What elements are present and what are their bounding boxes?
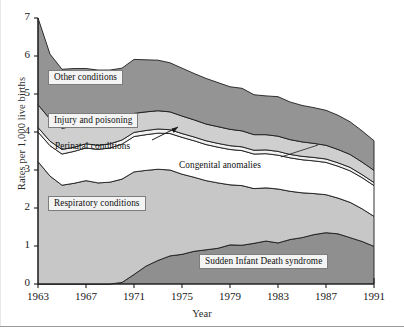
x-tick-label-1975: 1975 <box>162 290 202 302</box>
y-tick-label-0: 0 <box>16 276 30 288</box>
x-tick-label-1963: 1963 <box>18 290 58 302</box>
x-axis-title: Year <box>0 308 404 319</box>
y-tick-label-6: 6 <box>16 48 30 60</box>
chart-figure: Rates per 1,000 live births Year 0123456… <box>0 0 404 332</box>
figure-bottom-rule <box>0 326 404 327</box>
series-label-sudden-infant-death-syndrome: Sudden Infant Death syndrome <box>199 254 328 269</box>
y-tick-label-1: 1 <box>16 238 30 250</box>
y-tick-label-3: 3 <box>16 162 30 174</box>
y-tick-label-2: 2 <box>16 200 30 212</box>
x-tick-label-1967: 1967 <box>66 290 106 302</box>
series-label-respiratory-conditions: Respiratory conditions <box>48 196 146 211</box>
x-tick-label-1983: 1983 <box>258 290 298 302</box>
y-tick-label-7: 7 <box>16 10 30 22</box>
series-label-perinatal-conditions: Perinatal conditions <box>55 141 130 151</box>
series-label-congenital-anomalies: Congenital anomalies <box>179 160 261 170</box>
x-tick-label-1971: 1971 <box>114 290 154 302</box>
series-label-other-conditions: Other conditions <box>48 70 123 85</box>
y-tick-label-4: 4 <box>16 124 30 136</box>
x-tick-label-1979: 1979 <box>210 290 250 302</box>
y-tick-label-5: 5 <box>16 86 30 98</box>
x-tick-label-1991: 1991 <box>354 290 394 302</box>
x-tick-label-1987: 1987 <box>306 290 346 302</box>
series-label-injury-and-poisoning: Injury and poisoning <box>48 113 138 128</box>
